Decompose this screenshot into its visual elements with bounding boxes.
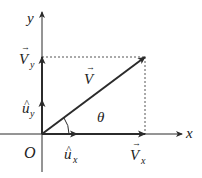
origin-label: O (24, 144, 36, 161)
ux-label: u (64, 146, 72, 162)
vector-v-label: V (84, 71, 95, 87)
uy-label: u (22, 100, 30, 116)
uy-label-subscript: y (29, 108, 35, 119)
angle-arc (64, 118, 69, 134)
angle-theta-label: θ (97, 109, 105, 125)
x-axis-label: x (185, 125, 193, 141)
vector-diagram: y x O → V → V y → V x ^ u y ^ u x θ (0, 0, 202, 178)
diagram-canvas: y x O → V → V y → V x ^ u y ^ u x θ (0, 0, 202, 178)
vy-label-subscript: y (29, 59, 35, 70)
y-axis-label: y (25, 10, 34, 26)
vy-label: V (19, 51, 30, 67)
vx-label-subscript: x (140, 155, 146, 166)
vx-label: V (130, 147, 141, 163)
ux-label-subscript: x (72, 154, 78, 165)
